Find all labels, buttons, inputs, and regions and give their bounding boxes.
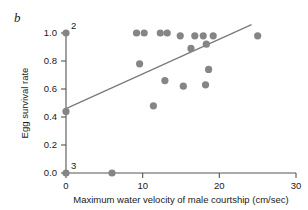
- data-point: [191, 32, 198, 39]
- y-tick-label: 0.6: [44, 83, 57, 94]
- x-axis-title: Maximum water velocity of male courtship…: [73, 194, 288, 205]
- x-axis-ticks: 0102030: [63, 173, 301, 191]
- point-count-annotation: 2: [71, 20, 76, 31]
- point-count-annotation: 3: [71, 160, 76, 171]
- data-point: [161, 77, 168, 84]
- data-point: [136, 60, 143, 67]
- data-point: [200, 32, 207, 39]
- y-axis-title: Egg survival rate: [19, 68, 30, 139]
- data-point-group: [62, 29, 261, 176]
- data-point: [133, 29, 140, 36]
- data-point: [108, 169, 115, 176]
- regression-line: [66, 25, 252, 109]
- data-point: [202, 81, 209, 88]
- data-point: [62, 169, 69, 176]
- y-tick-label: 0.8: [44, 55, 57, 66]
- annotation-group: 23: [71, 20, 76, 171]
- y-tick-label: 0.0: [44, 167, 57, 178]
- scatter-plot: 0.00.20.40.60.81.0 0102030 23 Maximum wa…: [0, 0, 308, 210]
- x-tick-label: 10: [137, 180, 148, 191]
- data-point: [141, 29, 148, 36]
- data-point: [205, 66, 212, 73]
- x-tick-label: 20: [214, 180, 225, 191]
- x-tick-label: 0: [63, 180, 68, 191]
- data-point: [254, 32, 261, 39]
- x-tick-label: 30: [291, 180, 302, 191]
- y-tick-label: 0.4: [44, 111, 57, 122]
- data-point: [177, 32, 184, 39]
- data-point: [187, 45, 194, 52]
- data-point: [62, 108, 69, 115]
- data-point: [164, 29, 171, 36]
- data-point: [62, 29, 69, 36]
- data-point: [203, 41, 210, 48]
- data-point: [180, 83, 187, 90]
- figure-panel-b: b 0.00.20.40.60.81.0 0102030 23 Maximum …: [0, 0, 308, 210]
- data-point: [210, 32, 217, 39]
- data-point: [150, 102, 157, 109]
- y-tick-label: 0.2: [44, 139, 57, 150]
- y-axis-ticks: 0.00.20.40.60.81.0: [44, 27, 66, 178]
- data-point: [157, 29, 164, 36]
- y-tick-label: 1.0: [44, 27, 57, 38]
